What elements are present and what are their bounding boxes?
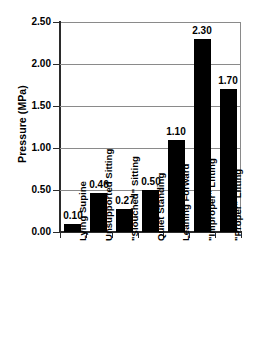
y-axis-tick [53,232,60,233]
bar-value-label: 1.10 [156,127,196,137]
gridline [60,64,241,65]
gridline [60,148,241,149]
x-axis-category-label: "Proper" Lifting [232,169,243,241]
x-axis-category-label: "Slouched" Sitting [129,156,140,241]
y-axis-tick [53,64,60,65]
x-axis-category-label: Quiet Standing [155,173,166,241]
y-axis-title: Pressure (MPa) [16,54,28,194]
y-axis-tick [53,22,60,23]
y-axis-tick [53,148,60,149]
y-axis-tick-label: 0.00 [11,227,51,237]
x-axis-category-label: Leaning Forward [180,164,191,241]
y-axis-tick-label: 2.00 [11,59,51,69]
y-axis-tick-label: 1.50 [11,101,51,111]
y-axis-tick [53,106,60,107]
bar-value-label: 1.70 [208,76,248,86]
y-axis-tick-label: 2.50 [11,17,51,27]
bar-value-label: 2.30 [182,26,222,36]
pressure-bar-chart: Pressure (MPa) 0.000.501.001.502.002.50 … [0,0,255,346]
y-axis-tick [53,190,60,191]
y-axis-tick-label: 0.50 [11,185,51,195]
x-axis-category-label: Unsupported Sitting [103,149,114,241]
y-axis-tick-label: 1.00 [11,143,51,153]
x-axis-category-label: Lying Supine [77,181,88,241]
y-axis-line [59,21,61,233]
x-axis-tick [60,233,61,238]
x-axis-category-label: "Improper" Lifting [206,158,217,241]
gridline [60,106,241,107]
